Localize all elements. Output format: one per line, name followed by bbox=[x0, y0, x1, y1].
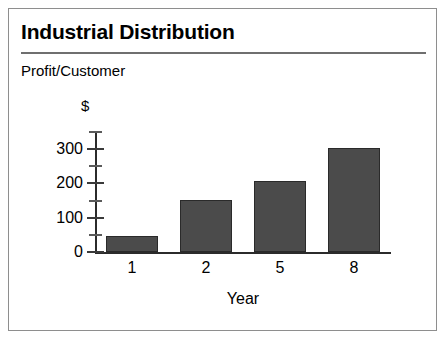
y-axis-unit-label: $ bbox=[81, 97, 89, 115]
chart-card: Industrial Distribution Profit/Customer … bbox=[8, 8, 437, 331]
y-tick-major bbox=[87, 217, 104, 219]
bar bbox=[328, 148, 380, 252]
y-tick-label: 300 bbox=[27, 141, 83, 157]
bar bbox=[106, 236, 158, 252]
x-tick-label: 1 bbox=[95, 259, 169, 277]
y-tick-minor bbox=[89, 234, 102, 236]
plot-area: $ 0100200300 1258 Year bbox=[9, 9, 438, 332]
x-tick-label: 5 bbox=[243, 259, 317, 277]
y-tick-minor bbox=[89, 165, 102, 167]
y-tick-label-wrap: 200 bbox=[23, 175, 83, 191]
y-tick-label-wrap: 0 bbox=[23, 244, 83, 260]
y-tick-label-wrap: 300 bbox=[23, 141, 83, 157]
bar bbox=[254, 181, 306, 252]
y-tick-major bbox=[87, 182, 104, 184]
y-tick-label-wrap: 100 bbox=[23, 210, 83, 226]
y-tick-major bbox=[87, 148, 104, 150]
x-tick-label: 8 bbox=[317, 259, 391, 277]
x-axis-line bbox=[95, 252, 391, 254]
y-tick-minor bbox=[89, 131, 102, 133]
y-tick-major bbox=[87, 251, 104, 253]
x-tick-label: 2 bbox=[169, 259, 243, 277]
bar bbox=[180, 200, 232, 252]
y-tick-label: 100 bbox=[27, 210, 83, 226]
y-tick-label: 200 bbox=[27, 175, 83, 191]
y-tick-label: 0 bbox=[27, 244, 83, 260]
x-axis-title: Year bbox=[95, 290, 391, 308]
y-tick-minor bbox=[89, 200, 102, 202]
